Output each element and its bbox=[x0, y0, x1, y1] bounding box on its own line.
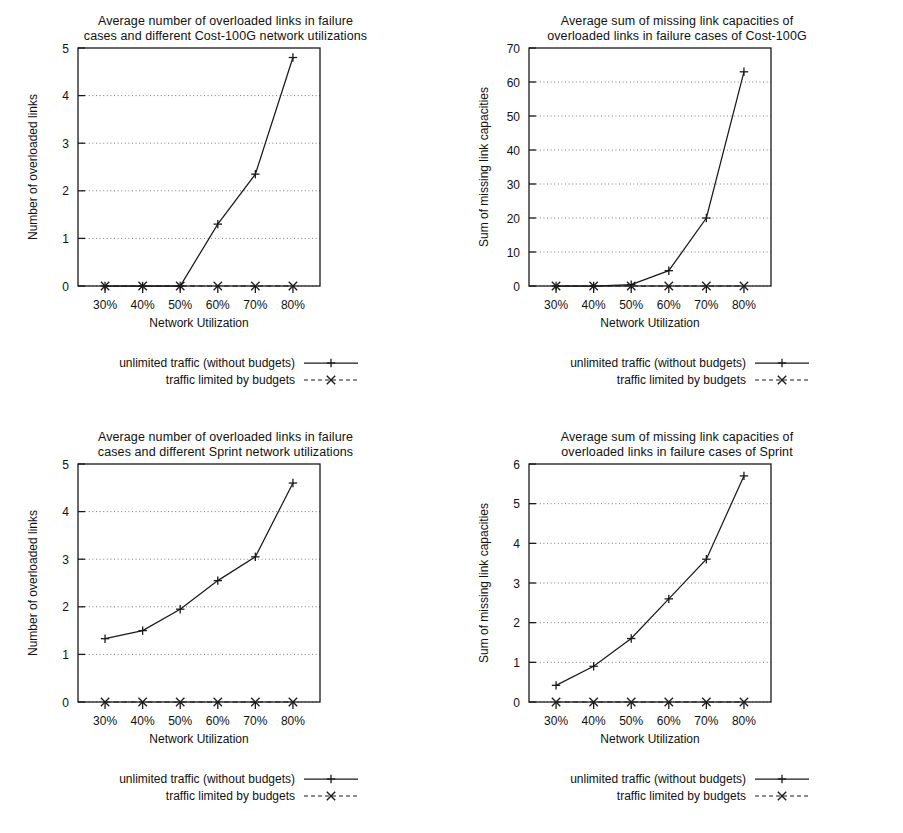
chart-panel-cost100g-overloaded-links: Average number of overloaded links in fa… bbox=[0, 0, 451, 416]
legend-item-2[interactable]: traffic limited by budgets bbox=[38, 371, 360, 388]
y-axis-tick-label: 5 bbox=[62, 458, 69, 472]
plus-marker bbox=[665, 267, 673, 275]
x-axis-tick-label: 30% bbox=[93, 298, 117, 312]
legend-key-cross-icon bbox=[302, 374, 360, 386]
plot-area: 01234530%40%50%60%70%80%Number of overlo… bbox=[0, 0, 451, 416]
plus-marker bbox=[552, 681, 560, 689]
legend-item-2[interactable]: traffic limited by budgets bbox=[489, 371, 811, 388]
axis-frame bbox=[78, 48, 320, 286]
y-axis-tick-label: 1 bbox=[513, 656, 520, 670]
y-axis-title: Number of overloaded links bbox=[26, 510, 40, 656]
y-axis-tick-label: 2 bbox=[62, 184, 69, 198]
legend-key-plus-icon bbox=[302, 773, 360, 785]
legend-label: traffic limited by budgets bbox=[617, 373, 746, 387]
legend-label: traffic limited by budgets bbox=[166, 373, 295, 387]
y-axis-tick-label: 4 bbox=[62, 89, 69, 103]
x-axis-tick-label: 80% bbox=[281, 714, 305, 728]
figure-grid: Average number of overloaded links in fa… bbox=[0, 0, 903, 833]
y-axis-tick-label: 50 bbox=[507, 110, 521, 124]
x-axis-tick-label: 40% bbox=[131, 714, 155, 728]
chart-panel-sprint-missing-capacities: Average sum of missing link capacities o… bbox=[451, 416, 903, 833]
legend-item-2[interactable]: traffic limited by budgets bbox=[38, 787, 360, 804]
x-axis-tick-label: 50% bbox=[168, 298, 192, 312]
y-axis-title: Sum of missing link capacities bbox=[477, 87, 491, 247]
plot-area: 01020304050607030%40%50%60%70%80%Sum of … bbox=[451, 0, 902, 416]
legend-label: unlimited traffic (without budgets) bbox=[119, 356, 295, 370]
plus-marker bbox=[627, 280, 635, 288]
chart-legend: unlimited traffic (without budgets)traff… bbox=[38, 770, 360, 804]
legend-item-1[interactable]: unlimited traffic (without budgets) bbox=[489, 770, 811, 787]
x-axis-tick-label: 70% bbox=[694, 298, 718, 312]
y-axis-tick-label: 0 bbox=[513, 280, 520, 294]
x-axis-tick-label: 40% bbox=[582, 298, 606, 312]
axis-frame bbox=[78, 464, 320, 702]
x-axis-tick-label: 50% bbox=[619, 714, 643, 728]
x-axis-tick-label: 60% bbox=[657, 298, 681, 312]
plus-marker bbox=[101, 634, 109, 642]
axis-frame bbox=[529, 48, 771, 286]
y-axis-tick-label: 30 bbox=[507, 178, 521, 192]
y-axis-tick-label: 1 bbox=[62, 232, 69, 246]
y-axis-tick-label: 20 bbox=[507, 212, 521, 226]
y-axis-tick-label: 3 bbox=[62, 553, 69, 567]
x-axis-title: Network Utilization bbox=[78, 732, 320, 746]
legend-key-cross-icon bbox=[753, 790, 811, 802]
plot-area: 012345630%40%50%60%70%80%Sum of missing … bbox=[451, 416, 902, 832]
series-line-1 bbox=[105, 58, 293, 286]
y-axis-tick-label: 6 bbox=[513, 458, 520, 472]
x-axis-tick-label: 50% bbox=[619, 298, 643, 312]
plus-marker bbox=[740, 68, 748, 76]
y-axis-tick-label: 0 bbox=[62, 280, 69, 294]
x-axis-tick-label: 40% bbox=[582, 714, 606, 728]
x-axis-tick-label: 60% bbox=[657, 714, 681, 728]
y-axis-tick-label: 5 bbox=[62, 42, 69, 56]
legend-item-2[interactable]: traffic limited by budgets bbox=[489, 787, 811, 804]
legend-key-cross-icon bbox=[753, 374, 811, 386]
plus-marker bbox=[289, 479, 297, 487]
legend-key-plus-icon bbox=[302, 357, 360, 369]
series-line-1 bbox=[556, 476, 744, 685]
chart-legend: unlimited traffic (without budgets)traff… bbox=[38, 354, 360, 388]
plus-marker bbox=[289, 53, 297, 61]
y-axis-tick-label: 70 bbox=[507, 42, 521, 56]
y-axis-tick-label: 2 bbox=[513, 616, 520, 630]
legend-label: traffic limited by budgets bbox=[166, 789, 295, 803]
plus-marker bbox=[138, 626, 146, 634]
legend-key-cross-icon bbox=[302, 790, 360, 802]
chart-panel-cost100g-missing-capacities: Average sum of missing link capacities o… bbox=[451, 0, 903, 416]
y-axis-tick-label: 0 bbox=[513, 696, 520, 710]
legend-item-1[interactable]: unlimited traffic (without budgets) bbox=[38, 354, 360, 371]
x-axis-tick-label: 30% bbox=[93, 714, 117, 728]
x-axis-tick-label: 30% bbox=[544, 298, 568, 312]
series-line-1 bbox=[105, 483, 293, 639]
legend-item-1[interactable]: unlimited traffic (without budgets) bbox=[489, 354, 811, 371]
y-axis-tick-label: 10 bbox=[507, 246, 521, 260]
x-axis-tick-label: 40% bbox=[131, 298, 155, 312]
y-axis-tick-label: 4 bbox=[62, 505, 69, 519]
chart-legend: unlimited traffic (without budgets)traff… bbox=[489, 770, 811, 804]
legend-key-plus-icon bbox=[753, 357, 811, 369]
legend-item-1[interactable]: unlimited traffic (without budgets) bbox=[38, 770, 360, 787]
y-axis-tick-label: 40 bbox=[507, 144, 521, 158]
y-axis-tick-label: 3 bbox=[513, 577, 520, 591]
x-axis-tick-label: 70% bbox=[243, 298, 267, 312]
x-axis-tick-label: 70% bbox=[694, 714, 718, 728]
y-axis-tick-label: 3 bbox=[62, 137, 69, 151]
plot-area: 01234530%40%50%60%70%80%Number of overlo… bbox=[0, 416, 451, 832]
x-axis-tick-label: 80% bbox=[732, 298, 756, 312]
x-axis-tick-label: 50% bbox=[168, 714, 192, 728]
legend-label: unlimited traffic (without budgets) bbox=[119, 772, 295, 786]
y-axis-tick-label: 1 bbox=[62, 648, 69, 662]
chart-panel-sprint-overloaded-links: Average number of overloaded links in fa… bbox=[0, 416, 451, 833]
x-axis-tick-label: 80% bbox=[732, 714, 756, 728]
x-axis-tick-label: 30% bbox=[544, 714, 568, 728]
chart-legend: unlimited traffic (without budgets)traff… bbox=[489, 354, 811, 388]
x-axis-title: Network Utilization bbox=[78, 316, 320, 330]
y-axis-tick-label: 60 bbox=[507, 76, 521, 90]
y-axis-tick-label: 0 bbox=[62, 696, 69, 710]
x-axis-tick-label: 70% bbox=[243, 714, 267, 728]
x-axis-tick-label: 60% bbox=[206, 298, 230, 312]
y-axis-title: Sum of missing link capacities bbox=[477, 503, 491, 663]
x-axis-tick-label: 60% bbox=[206, 714, 230, 728]
x-axis-title: Network Utilization bbox=[529, 732, 771, 746]
